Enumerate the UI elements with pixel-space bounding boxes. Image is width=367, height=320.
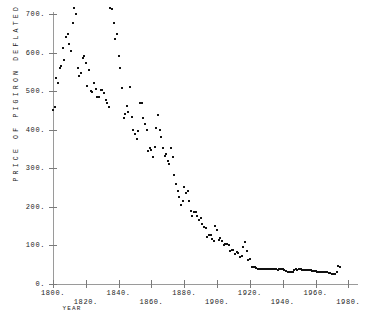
- scatter-point: [191, 215, 193, 217]
- scatter-point: [244, 241, 246, 243]
- scatter-point: [137, 130, 139, 132]
- scatter-point: [141, 102, 143, 104]
- scatter-point: [75, 13, 77, 15]
- scatter-point: [85, 62, 87, 64]
- scatter-point: [221, 240, 223, 242]
- scatter-point: [83, 55, 85, 57]
- scatter-point: [116, 33, 118, 35]
- scatter-point: [91, 91, 93, 93]
- x-axis-tick: [53, 280, 54, 288]
- x-axis-tick: [151, 280, 152, 288]
- scatter-point: [55, 77, 57, 79]
- x-axis-tick: [283, 280, 284, 288]
- x-axis-tick: [119, 280, 120, 288]
- scatter-point: [159, 129, 161, 131]
- scatter-point: [178, 196, 180, 198]
- scatter-point: [241, 255, 243, 257]
- scatter-point: [165, 153, 167, 155]
- x-axis-tick-label: 1860.: [131, 298, 171, 306]
- scatter-point: [182, 200, 184, 202]
- chart-canvas: 0.100.200.300.400.500.600.700. 1800.1820…: [0, 0, 367, 320]
- y-axis-tick: [49, 168, 57, 169]
- scatter-point: [167, 160, 169, 162]
- scatter-point: [52, 109, 54, 111]
- scatter-point: [127, 111, 129, 113]
- x-axis-line: [53, 284, 358, 285]
- y-axis-tick: [49, 207, 57, 208]
- scatter-point: [60, 65, 62, 67]
- scatter-point: [242, 246, 244, 248]
- scatter-point: [80, 72, 82, 74]
- scatter-point: [77, 67, 79, 69]
- scatter-point: [185, 192, 187, 194]
- scatter-point: [124, 113, 126, 115]
- scatter-point: [72, 22, 74, 24]
- x-axis-tick-label: 1960.: [296, 289, 336, 297]
- scatter-point: [126, 105, 128, 107]
- scatter-point: [162, 147, 164, 149]
- y-axis-tick: [49, 245, 57, 246]
- scatter-point: [78, 75, 80, 77]
- scatter-point: [129, 86, 131, 88]
- scatter-point: [70, 50, 72, 52]
- scatter-point: [228, 244, 230, 246]
- scatter-point: [187, 190, 189, 192]
- y-axis-tick: [49, 14, 57, 15]
- scatter-point: [73, 7, 75, 9]
- scatter-point: [160, 136, 162, 138]
- scatter-point: [175, 183, 177, 185]
- x-axis-tick-label: 1800.: [33, 289, 73, 297]
- x-axis-tick: [250, 280, 251, 288]
- scatter-point: [200, 217, 202, 219]
- x-axis-tick: [316, 280, 317, 288]
- scatter-point: [67, 33, 69, 35]
- scatter-point: [123, 117, 125, 119]
- scatter-point: [183, 186, 185, 188]
- scatter-point: [180, 204, 182, 206]
- y-axis-tick-label: 600.: [5, 49, 45, 57]
- scatter-point: [336, 271, 338, 273]
- y-axis-tick: [49, 53, 57, 54]
- scatter-point: [136, 138, 138, 140]
- y-axis-title: PRICE OF PIGIRON DEFLATED BY WAGE: [13, 62, 20, 182]
- scatter-point: [121, 87, 123, 89]
- scatter-point: [173, 174, 175, 176]
- scatter-point: [142, 117, 144, 119]
- scatter-point: [214, 225, 216, 227]
- scatter-point: [111, 8, 113, 10]
- scatter-point: [195, 211, 197, 213]
- y-axis-tick-label: 300.: [5, 164, 45, 172]
- x-axis-tick: [348, 280, 349, 288]
- scatter-point: [88, 69, 90, 71]
- scatter-point: [339, 266, 341, 268]
- x-axis-tick-label: 1980.: [328, 298, 367, 306]
- scatter-point: [118, 55, 120, 57]
- scatter-point: [249, 258, 251, 260]
- scatter-point: [172, 156, 174, 158]
- x-axis-title: YEAR: [52, 305, 92, 312]
- scatter-point: [206, 236, 208, 238]
- scatter-point: [101, 89, 103, 91]
- scatter-point: [62, 47, 64, 49]
- scatter-point: [57, 82, 59, 84]
- scatter-point: [237, 252, 239, 254]
- scatter-point: [213, 240, 215, 242]
- scatter-point: [113, 22, 115, 24]
- scatter-point: [132, 129, 134, 131]
- y-axis-tick-label: 700.: [5, 10, 45, 18]
- y-axis-tick-label: 100.: [5, 241, 45, 249]
- scatter-point: [164, 155, 166, 157]
- scatter-point: [196, 215, 198, 217]
- scatter-point: [144, 123, 146, 125]
- scatter-point: [54, 106, 56, 108]
- scatter-point: [59, 67, 61, 69]
- x-axis-tick-label: 1920.: [230, 289, 270, 297]
- y-axis-tick: [49, 130, 57, 131]
- x-axis-tick: [86, 280, 87, 288]
- scatter-point: [150, 149, 152, 151]
- scatter-point: [152, 156, 154, 158]
- scatter-point: [86, 85, 88, 87]
- x-axis-tick-label: 1940.: [263, 298, 303, 306]
- scatter-point: [198, 219, 200, 221]
- scatter-point: [246, 250, 248, 252]
